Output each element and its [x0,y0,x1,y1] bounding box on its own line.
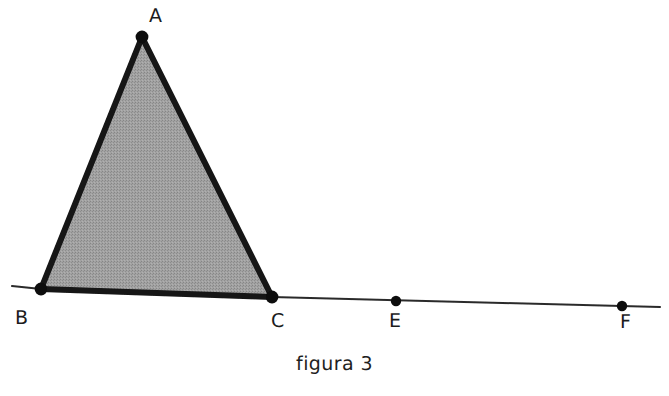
figure-diagram [0,0,669,396]
point-a-dot [136,31,149,44]
point-b-dot [35,283,48,296]
point-label-f: F [620,313,631,332]
point-f-dot [617,301,627,311]
point-label-c: C [271,312,285,331]
point-e-dot [391,296,401,306]
figure-caption: figura 3 [0,353,669,375]
point-label-e: E [389,312,401,331]
point-label-a: A [149,7,162,26]
point-c-dot [266,291,279,304]
point-label-b: B [15,309,28,328]
